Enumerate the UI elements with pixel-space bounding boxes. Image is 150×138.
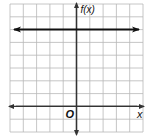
x-axis-label: x bbox=[136, 108, 143, 120]
axes bbox=[9, 3, 144, 135]
origin-label: O bbox=[66, 108, 75, 120]
y-axis-label: f(x) bbox=[81, 4, 95, 15]
coordinate-graph: x f(x) O bbox=[0, 0, 150, 138]
